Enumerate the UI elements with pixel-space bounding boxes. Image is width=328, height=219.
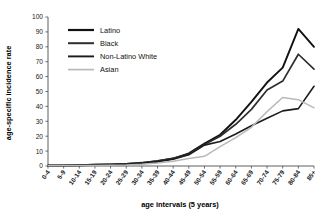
y-tick-label: 100 <box>32 13 43 20</box>
legend-label-black: Black <box>100 39 118 48</box>
legend-label-non-latino-white: Non-Latino White <box>100 52 157 61</box>
y-tick-label: 0 <box>39 162 43 169</box>
y-tick-label: 10 <box>36 148 44 155</box>
y-tick-label: 30 <box>36 118 44 125</box>
legend-label-latino: Latino <box>100 26 120 35</box>
y-tick-label: 40 <box>36 103 44 110</box>
chart-container: 0102030405060708090100 0-45-910-1415-192… <box>0 0 328 219</box>
y-tick-label: 80 <box>36 43 44 50</box>
incidence-rate-line-chart: 0102030405060708090100 0-45-910-1415-192… <box>0 0 328 219</box>
y-tick-label: 60 <box>36 73 44 80</box>
legend-label-asian: Asian <box>100 65 119 74</box>
y-tick-label: 50 <box>36 88 44 95</box>
x-axis-title: age intervals (5 years) <box>141 200 219 209</box>
y-tick-label: 90 <box>36 28 44 35</box>
y-tick-label: 20 <box>36 133 44 140</box>
y-axis-title: age-specific incidence rate <box>4 46 13 140</box>
chart-background <box>0 0 328 219</box>
y-tick-label: 70 <box>36 58 44 65</box>
